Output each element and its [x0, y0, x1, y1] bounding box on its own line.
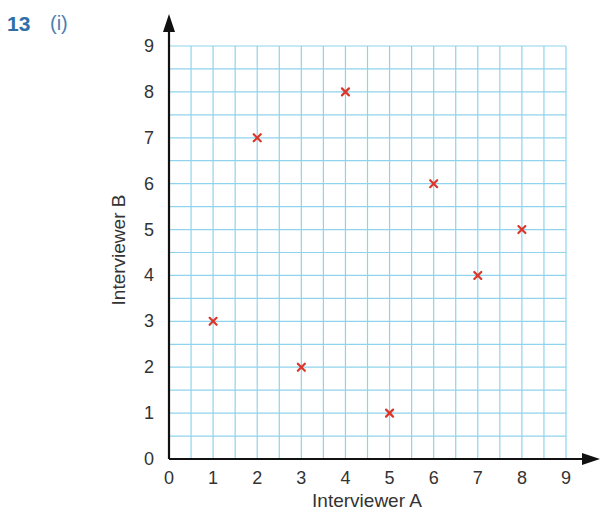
y-tick-label: 6 — [144, 174, 154, 194]
chart-axes — [163, 14, 600, 465]
x-axis-arrow-icon — [582, 453, 600, 465]
chart-tick-labels: 01234567890123456789 — [144, 36, 571, 488]
x-tick-label: 1 — [208, 468, 218, 488]
x-tick-label: 0 — [164, 468, 174, 488]
y-tick-label: 7 — [144, 128, 154, 148]
x-tick-label: 5 — [385, 468, 395, 488]
y-tick-label: 3 — [144, 311, 154, 331]
x-tick-label: 2 — [252, 468, 262, 488]
scatter-chart: 01234567890123456789 Interviewer A Inter… — [0, 0, 601, 514]
y-axis-label: Interviewer B — [108, 195, 129, 306]
x-tick-label: 8 — [517, 468, 527, 488]
y-tick-label: 1 — [144, 403, 154, 423]
y-tick-label: 5 — [144, 220, 154, 240]
y-tick-label: 9 — [144, 36, 154, 56]
y-tick-label: 0 — [144, 449, 154, 469]
x-axis-label: Interviewer A — [312, 490, 422, 511]
x-tick-label: 9 — [561, 468, 571, 488]
x-tick-label: 4 — [340, 468, 350, 488]
y-axis-arrow-icon — [163, 14, 175, 32]
x-tick-label: 6 — [429, 468, 439, 488]
x-tick-label: 7 — [473, 468, 483, 488]
y-tick-label: 2 — [144, 357, 154, 377]
y-tick-label: 8 — [144, 82, 154, 102]
chart-grid — [169, 46, 566, 459]
y-tick-label: 4 — [144, 265, 154, 285]
x-tick-label: 3 — [296, 468, 306, 488]
